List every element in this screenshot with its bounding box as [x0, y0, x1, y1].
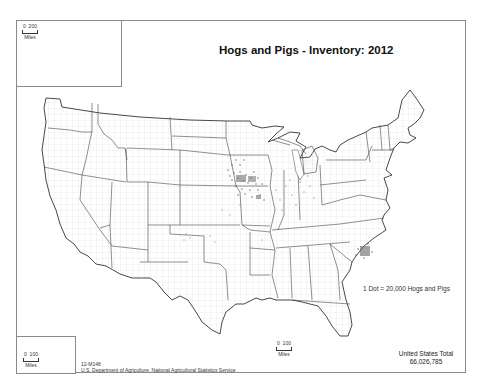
us-total: United States Total 66,026,785 [388, 350, 464, 366]
main-scale: 0 100 Miles [272, 340, 296, 357]
hawaii-scale-unit: Miles [25, 362, 37, 368]
alaska-scale: 0 200 Miles [19, 23, 41, 40]
main-scale-unit: Miles [278, 351, 290, 357]
alaska-scale-max: 200 [29, 23, 37, 29]
map-source: U.S. Department of Agriculture, National… [81, 367, 236, 373]
alaska-inset: 0 200 Miles [16, 20, 122, 87]
contiguous-us [42, 90, 424, 336]
alaska-scale-unit: Miles [24, 34, 36, 40]
alaska-scale-zero: 0 [23, 23, 26, 29]
map-credits: 12-M148 U.S. Department of Agriculture, … [81, 361, 236, 373]
dot-legend: 1 Dot = 20,000 Hogs and Pigs [363, 285, 450, 292]
hawaii-scale-zero: 0 [24, 351, 27, 357]
us-total-label: United States Total [388, 350, 464, 358]
main-scale-zero: 0 [277, 340, 280, 346]
main-scale-max: 100 [283, 340, 291, 346]
map-title: Hogs and Pigs - Inventory: 2012 [219, 44, 393, 56]
hawaii-scale: 0 100 Miles [19, 351, 43, 368]
hawaii-scale-max: 100 [30, 351, 38, 357]
us-total-value: 66,026,785 [388, 358, 464, 366]
hawaii-inset: 0 100 Miles [16, 336, 76, 374]
